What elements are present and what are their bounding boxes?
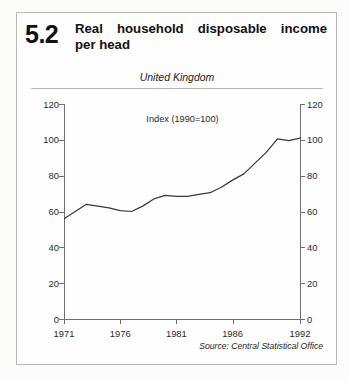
figure-frame: 5.2 Real household disposable income per… (16, 12, 337, 365)
page-title-line1: Real household disposable income (75, 21, 327, 37)
y-tick-label-r-80: 80 (307, 171, 347, 180)
y-tick-label-l-80: 80 (19, 171, 59, 180)
x-tick-label-1981: 1981 (154, 328, 198, 339)
x-tick-1986 (233, 320, 234, 324)
figure-page: 5.2 Real household disposable income per… (0, 0, 350, 382)
y-tick-label-r-120: 120 (307, 100, 347, 109)
y-tick-label-r-0: 0 (307, 315, 347, 324)
x-tick-1981 (176, 320, 177, 324)
y-tick-label-l-120: 120 (19, 100, 59, 109)
y-tick-label-r-40: 40 (307, 243, 347, 252)
x-tick-label-1986: 1986 (211, 328, 255, 339)
y-tick-label-l-100: 100 (19, 135, 59, 144)
page-title: Real household disposable income per hea… (75, 21, 327, 52)
x-tick-label-1992: 1992 (278, 328, 322, 339)
x-tick-1976 (120, 320, 121, 324)
y-tick-label-l-0: 0 (19, 315, 59, 324)
figure-number: 5.2 (25, 19, 71, 49)
chart-region-label: United Kingdom (31, 71, 323, 87)
x-tick-1992 (300, 320, 301, 324)
plot-area: Index (1990=100) 00202040406060808010010… (64, 104, 301, 320)
data-series-line (64, 104, 301, 320)
page-title-line2: per head (75, 37, 327, 53)
title-block: 5.2 Real household disposable income per… (25, 19, 329, 65)
source-note: Source: Central Statistical Office (199, 341, 323, 351)
x-tick-label-1976: 1976 (98, 328, 142, 339)
y-tick-label-l-40: 40 (19, 243, 59, 252)
x-tick-1971 (64, 320, 65, 324)
header-rule (31, 88, 323, 89)
chart-container: United Kingdom Index (1990=100) 00202040… (17, 69, 338, 365)
y-tick-label-l-20: 20 (19, 279, 59, 288)
y-tick-label-r-100: 100 (307, 135, 347, 144)
y-tick-label-r-20: 20 (307, 279, 347, 288)
y-tick-label-r-60: 60 (307, 207, 347, 216)
y-tick-label-l-60: 60 (19, 207, 59, 216)
x-tick-label-1971: 1971 (42, 328, 86, 339)
